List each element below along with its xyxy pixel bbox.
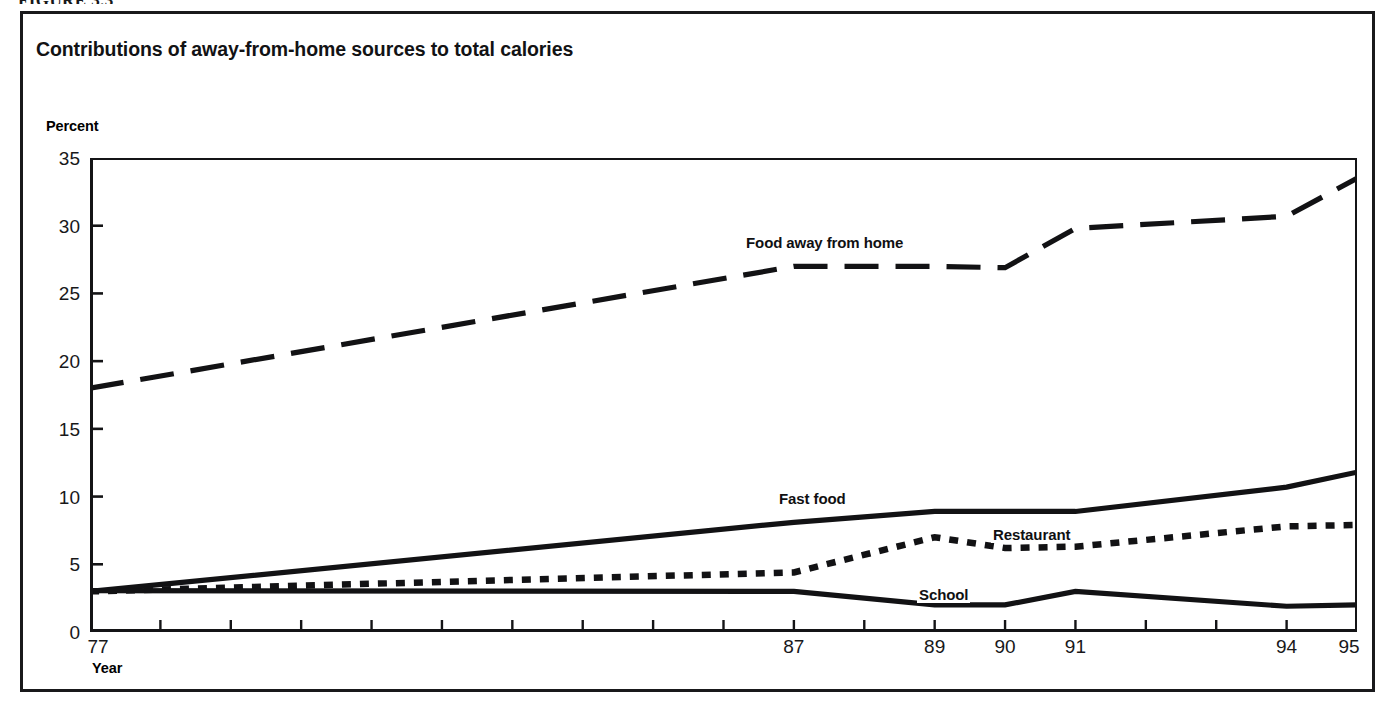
x-tick-label: 91: [1065, 637, 1086, 656]
x-tick-label: 77: [87, 637, 108, 656]
series-line: [90, 525, 1357, 591]
x-tick-label: 95: [1338, 637, 1359, 656]
series-line: [90, 591, 1357, 607]
x-tick-label: 90: [994, 637, 1015, 656]
series-label: Food away from home: [744, 234, 905, 251]
chart-canvas: [90, 158, 1357, 632]
y-tick-label: 0: [69, 623, 80, 642]
x-tick-label: 89: [924, 637, 945, 656]
y-tick-label: 10: [59, 487, 80, 506]
x-axis-tick-labels: 77878990919495: [90, 637, 1357, 665]
y-axis-title: Percent: [46, 118, 99, 134]
y-tick-label: 15: [59, 419, 80, 438]
chart-title: Contributions of away-from-home sources …: [36, 38, 573, 61]
x-tick-label: 94: [1276, 637, 1297, 656]
figure-caption: FIGURE 3.3: [18, 0, 114, 4]
y-axis-tick-labels: 05101520253035: [30, 158, 80, 632]
y-tick-label: 25: [59, 284, 80, 303]
series-label: Restaurant: [991, 526, 1072, 543]
x-tick-label: 87: [783, 637, 804, 656]
series-label: Fast food: [777, 490, 848, 507]
y-tick-label: 30: [59, 216, 80, 235]
y-tick-label: 20: [59, 352, 80, 371]
series-line: [90, 178, 1357, 388]
plot-area: [90, 158, 1357, 632]
series-label: School: [917, 586, 970, 603]
y-tick-label: 5: [69, 555, 80, 574]
y-tick-label: 35: [59, 149, 80, 168]
